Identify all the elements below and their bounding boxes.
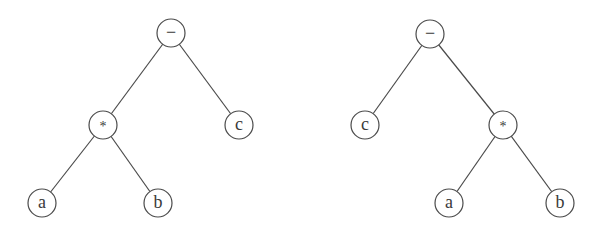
node-a: a bbox=[28, 189, 56, 217]
node-label: * bbox=[100, 119, 107, 134]
node-label: c bbox=[361, 114, 369, 134]
node-multiply: * bbox=[89, 111, 117, 139]
edge-minus-to-mul bbox=[103, 33, 171, 125]
expression-trees-diagram: − * c a b − c bbox=[0, 0, 602, 230]
node-c: c bbox=[225, 111, 253, 139]
node-label: c bbox=[235, 114, 243, 134]
node-label: − bbox=[425, 23, 435, 43]
edge-minus-to-mul bbox=[430, 34, 503, 125]
node-b: b bbox=[546, 189, 574, 217]
left-tree: − * c a b bbox=[28, 19, 253, 217]
node-label: a bbox=[445, 192, 453, 212]
node-label: b bbox=[154, 192, 163, 212]
node-c: c bbox=[351, 111, 379, 139]
node-label: b bbox=[556, 192, 565, 212]
edge-minus-to-c bbox=[365, 34, 430, 125]
node-minus-root: − bbox=[157, 19, 185, 47]
node-label: − bbox=[166, 22, 176, 42]
right-tree: − c * a b bbox=[351, 20, 574, 217]
node-label: * bbox=[500, 119, 507, 134]
node-b: b bbox=[144, 189, 172, 217]
node-label: a bbox=[38, 192, 46, 212]
node-a: a bbox=[435, 189, 463, 217]
edge-mul-to-a bbox=[42, 125, 103, 203]
node-minus-root: − bbox=[416, 20, 444, 48]
edge-minus-to-c bbox=[171, 33, 239, 125]
node-multiply: * bbox=[489, 111, 517, 139]
